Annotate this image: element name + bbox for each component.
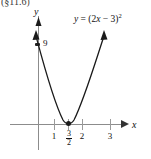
equation-equals: = [81,14,86,24]
y-axis-arrow-icon [36,17,42,26]
parabola-figure: (§11.6) x y 9 1 2 3 3 2 y = (2x − 3)2 [0,0,151,159]
vertex-point [66,121,71,126]
curve-left-arrow-icon [33,30,40,40]
equation-lhs: y [74,14,78,24]
parabola-path [36,36,104,124]
equation-label: y = (2x − 3)2 [74,12,122,24]
equation-exponent: 2 [119,12,122,19]
curve-right-arrow-icon [101,30,108,40]
equation-rhs-mid: − 3) [100,14,118,24]
